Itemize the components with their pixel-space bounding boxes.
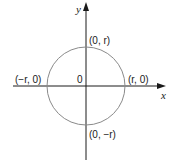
y-axis-arrow-icon: [83, 2, 89, 11]
circle-diagram: y x 0 (0, r) (0, −r) (−r, 0) (r, 0): [0, 0, 169, 160]
point-label-bottom: (0, −r): [89, 129, 116, 140]
origin-label: 0: [77, 74, 83, 85]
point-label-top: (0, r): [89, 35, 110, 46]
point-label-right: (r, 0): [128, 74, 149, 85]
x-axis-label: x: [160, 89, 166, 101]
y-axis-label: y: [75, 3, 81, 15]
point-label-left: (−r, 0): [15, 74, 41, 85]
